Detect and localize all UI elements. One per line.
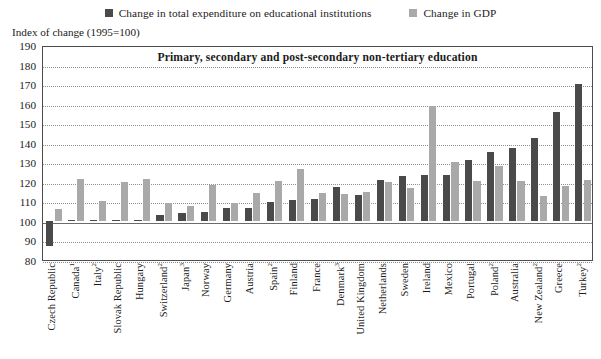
- bar-light-turkey: [584, 180, 591, 221]
- y-tick-label-110: 110: [10, 196, 36, 208]
- x-tick-label-denmark: Denmark3: [334, 263, 347, 306]
- y-tick-label-120: 120: [10, 177, 36, 189]
- bar-light-poland: [495, 166, 502, 221]
- y-tick-label-100: 100: [10, 216, 36, 228]
- legend-label-expenditure: Change in total expenditure on education…: [119, 8, 372, 19]
- x-tick-label-slovakrepublic: Slovak Republic: [113, 263, 123, 333]
- bar-light-france: [319, 193, 326, 221]
- x-tick-label-ireland: Ireland: [422, 263, 432, 293]
- chart-page: Change in total expenditure on education…: [0, 0, 601, 359]
- legend-item-gdp: Change in GDP: [409, 8, 496, 19]
- x-tick-label-france: France: [312, 263, 322, 292]
- bar-dark-australia: [509, 148, 516, 221]
- x-tick-label-austria: Austria: [245, 263, 255, 294]
- x-tick-label-mexico: Mexico: [444, 263, 454, 295]
- bar-dark-newzealand: [531, 138, 538, 221]
- bar-light-denmark: [341, 194, 348, 221]
- bar-light-switzerland: [165, 203, 172, 221]
- square-swatch-light-icon: [409, 9, 417, 17]
- bar-dark-italy: [90, 220, 97, 221]
- bar-dark-slovakrepublic: [112, 220, 119, 221]
- y-axis-caption: Index of change (1995=100): [12, 26, 140, 38]
- bar-light-sweden: [407, 188, 414, 221]
- x-tick-label-italy: Italy2: [91, 263, 104, 286]
- bar-light-italy: [99, 201, 106, 221]
- y-tick-label-160: 160: [10, 99, 36, 111]
- bar-light-netherlands: [385, 182, 392, 221]
- bar-dark-turkey: [575, 84, 582, 221]
- x-tick-label-switzerland: Switzerland2: [157, 263, 170, 317]
- bar-light-australia: [517, 181, 524, 221]
- bar-dark-austria: [245, 208, 252, 221]
- x-tick-label-newzealand: New Zealand2: [532, 263, 545, 323]
- x-tick-label-sweden: Sweden: [400, 263, 410, 297]
- bar-dark-mexico: [443, 175, 450, 221]
- bar-dark-unitedkingdom: [355, 195, 362, 221]
- y-tick-label-80: 80: [10, 255, 36, 267]
- bar-dark-netherlands: [377, 180, 384, 221]
- x-tick-label-japan: Japan3: [179, 263, 192, 291]
- bar-light-ireland: [429, 106, 436, 221]
- x-tick-label-norway: Norway: [201, 263, 211, 297]
- y-tick-label-140: 140: [10, 138, 36, 150]
- y-tick-label-190: 190: [10, 40, 36, 52]
- bar-dark-ireland: [421, 175, 428, 221]
- bar-dark-greece: [553, 112, 560, 220]
- bar-dark-france: [311, 199, 318, 221]
- bar-light-greece: [562, 186, 569, 221]
- x-tick-label-australia: Australia: [510, 263, 520, 302]
- bar-dark-hungary: [134, 220, 141, 221]
- bar-light-mexico: [451, 162, 458, 221]
- y-tick-label-180: 180: [10, 60, 36, 72]
- bar-dark-finland: [289, 200, 296, 221]
- y-tick-label-170: 170: [10, 79, 36, 91]
- x-tick-label-greece: Greece: [554, 263, 564, 293]
- x-tick-label-netherlands: Netherlands: [378, 263, 388, 314]
- bar-dark-spain: [267, 202, 274, 221]
- bar-dark-czechrepublic: [46, 221, 53, 246]
- bar-dark-portugal: [465, 160, 472, 221]
- bar-light-japan: [187, 206, 194, 221]
- x-axis-labels: Czech RepublicCanada1Italy2Slovak Republ…: [42, 263, 593, 359]
- bar-light-finland: [297, 169, 304, 221]
- x-tick-label-poland: Poland2: [488, 263, 501, 296]
- legend-item-expenditure: Change in total expenditure on education…: [105, 8, 372, 19]
- y-tick-label-130: 130: [10, 157, 36, 169]
- chart-legend: Change in total expenditure on education…: [0, 5, 601, 21]
- bar-dark-sweden: [399, 176, 406, 221]
- x-tick-label-hungary: Hungary: [135, 263, 145, 300]
- bar-dark-germany: [223, 208, 230, 221]
- bar-light-portugal: [473, 181, 480, 221]
- bar-light-austria: [253, 193, 260, 221]
- square-swatch-dark-icon: [105, 9, 113, 17]
- bar-dark-denmark: [333, 187, 340, 221]
- bar-dark-switzerland: [156, 215, 163, 221]
- bar-dark-norway: [201, 212, 208, 221]
- bar-light-hungary: [143, 179, 150, 221]
- bar-light-spain: [275, 181, 282, 221]
- x-tick-label-unitedkingdom: United Kingdom: [356, 263, 366, 335]
- bar-light-unitedkingdom: [363, 192, 370, 221]
- bar-light-norway: [209, 185, 216, 221]
- x-tick-label-spain: Spain2: [267, 263, 280, 291]
- bar-light-slovakrepublic: [121, 182, 128, 221]
- bar-light-czechrepublic: [55, 209, 62, 221]
- bar-light-canada: [77, 179, 84, 221]
- bar-light-newzealand: [540, 196, 547, 221]
- x-tick-label-portugal: Portugal: [466, 263, 476, 299]
- bars-layer: [43, 47, 592, 260]
- x-tick-label-germany: Germany: [223, 263, 233, 302]
- bar-dark-poland: [487, 152, 494, 221]
- x-tick-label-canada: Canada1: [69, 263, 82, 298]
- y-tick-label-150: 150: [10, 118, 36, 130]
- x-tick-label-turkey: Turkey2: [576, 263, 589, 297]
- bar-light-germany: [231, 203, 238, 221]
- legend-label-gdp: Change in GDP: [423, 8, 496, 19]
- x-tick-label-finland: Finland: [289, 263, 299, 295]
- bar-dark-canada: [68, 220, 75, 221]
- plot-area: Primary, secondary and post-secondary no…: [42, 46, 593, 261]
- x-tick-label-czechrepublic: Czech Republic: [47, 263, 57, 330]
- bar-dark-japan: [178, 213, 185, 221]
- y-tick-label-90: 90: [10, 235, 36, 247]
